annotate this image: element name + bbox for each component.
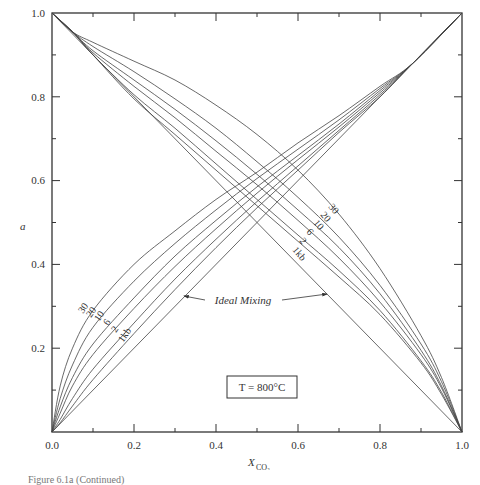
ideal-mixing-annotation: Ideal Mixing (184, 294, 327, 306)
curves (52, 13, 462, 432)
arrow-right-icon (282, 294, 327, 300)
x-tick-1: 0.2 (127, 439, 141, 451)
x-axis-label-x: X (247, 456, 256, 468)
y-tick-1: 0.4 (31, 258, 45, 270)
x-axis-tick-labels: 0.0 0.2 0.4 0.6 0.8 1.0 (45, 439, 469, 451)
activity-composition-chart: 0.0 0.2 0.4 0.6 0.8 1.0 0.2 0.4 0.6 0.8 … (0, 0, 480, 470)
ideal-mixing-label: Ideal Mixing (214, 294, 272, 306)
x-axis-label: X CO₂ (247, 456, 270, 470)
figure-caption: Figure 6.1a (Continued) (28, 474, 124, 485)
label-1kb-left: 1kb (116, 326, 134, 345)
x-tick-2: 0.4 (209, 439, 223, 451)
x-tick-0: 0.0 (45, 439, 59, 451)
y-tick-3: 0.8 (31, 91, 45, 103)
y-axis-label: a (20, 220, 26, 232)
y-tick-4: 1.0 (31, 7, 45, 19)
y-tick-0: 0.2 (31, 342, 45, 354)
x-tick-3: 0.6 (291, 439, 305, 451)
arrow-left-icon (184, 296, 205, 300)
x-tick-5: 1.0 (455, 439, 469, 451)
rising-curve-labels: 30 20 10 6 2 1kb (76, 301, 134, 345)
x-axis-label-subscript: CO₂ (256, 463, 270, 470)
temperature-label: T = 800°C (239, 381, 285, 393)
y-axis-tick-labels: 0.2 0.4 0.6 0.8 1.0 (31, 7, 45, 354)
temperature-box: T = 800°C (227, 376, 297, 398)
x-tick-4: 0.8 (373, 439, 387, 451)
y-tick-2: 0.6 (31, 174, 45, 186)
